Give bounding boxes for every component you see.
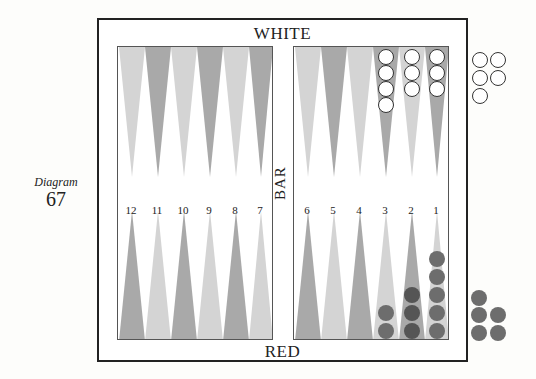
red-checker-off (490, 325, 506, 341)
backgammon-board: WHITE RED BAR (97, 18, 468, 362)
red-checker[interactable] (404, 287, 420, 303)
white-checker[interactable] (404, 65, 420, 81)
red-checker[interactable] (429, 251, 445, 267)
point-number: 5 (320, 204, 346, 216)
red-checker[interactable] (378, 323, 394, 339)
point-number: 4 (346, 204, 372, 216)
red-checker[interactable] (378, 305, 394, 321)
point-number: 9 (196, 204, 222, 216)
diagram-caption: Diagram 67 (24, 176, 88, 209)
red-checker[interactable] (429, 269, 445, 285)
red-label: RED (99, 342, 466, 362)
home-board (293, 46, 449, 340)
white-checker[interactable] (378, 65, 394, 81)
point-number: 11 (144, 204, 170, 216)
white-checker[interactable] (404, 81, 420, 97)
home-board-points (294, 47, 449, 340)
red-checker-off (471, 290, 487, 306)
white-checker-off (472, 70, 488, 86)
point-number: 3 (372, 204, 398, 216)
white-checker[interactable] (429, 81, 445, 97)
red-checker[interactable] (429, 287, 445, 303)
point-number: 6 (294, 204, 320, 216)
outer-board-points (118, 47, 273, 340)
red-checker-off (471, 307, 487, 323)
red-checker[interactable] (404, 323, 420, 339)
white-checker[interactable] (378, 49, 394, 65)
point-number: 7 (247, 204, 273, 216)
red-checker[interactable] (429, 323, 445, 339)
point-number: 2 (398, 204, 424, 216)
red-checker-off (471, 325, 487, 341)
outer-board (117, 46, 273, 340)
white-checker-off (490, 52, 506, 68)
white-checker-off (472, 52, 488, 68)
white-checker[interactable] (378, 97, 394, 113)
white-label: WHITE (99, 24, 466, 44)
white-checker[interactable] (429, 49, 445, 65)
red-checker[interactable] (404, 305, 420, 321)
red-checker-off (490, 307, 506, 323)
white-checker[interactable] (404, 49, 420, 65)
red-checker[interactable] (429, 305, 445, 321)
point-number: 10 (170, 204, 196, 216)
white-checker[interactable] (378, 81, 394, 97)
white-checker[interactable] (429, 65, 445, 81)
caption-number: 67 (24, 189, 88, 209)
white-checker-off (472, 88, 488, 104)
bar-label: BAR (272, 166, 289, 200)
point-number: 12 (118, 204, 144, 216)
white-checker-off (490, 70, 506, 86)
point-number: 8 (222, 204, 248, 216)
point-number: 1 (423, 204, 449, 216)
